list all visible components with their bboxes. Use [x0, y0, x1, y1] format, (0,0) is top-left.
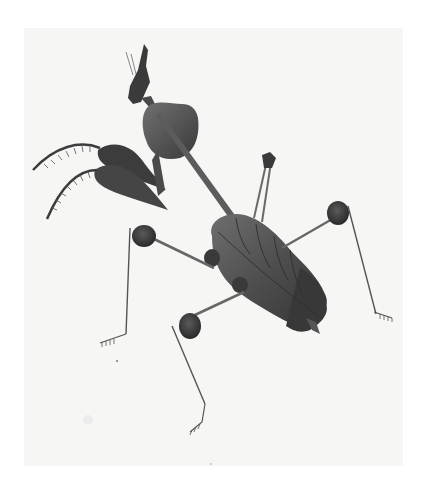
- leg-hind-tarsus: [190, 404, 205, 432]
- leg-hind-knee-lobe: [179, 313, 201, 339]
- leg-right-tibia: [348, 206, 376, 314]
- leg-left-knee-lobe: [132, 225, 156, 247]
- raptorial-forelegs: [33, 145, 168, 219]
- leg-right-knee-lobe: [327, 201, 349, 225]
- head-crest: [128, 44, 150, 104]
- leg-left-femur: [152, 238, 214, 268]
- leg-left-tarsus: [100, 334, 126, 343]
- mantis-illustration: [0, 0, 425, 494]
- paper-stain: [83, 415, 93, 425]
- leg-left-tibia: [126, 228, 130, 334]
- antenna-left: [126, 52, 133, 75]
- leg-middle-right: [262, 162, 271, 222]
- leg-left-hind: [172, 292, 244, 435]
- paper-speck: [116, 360, 118, 362]
- page: [0, 0, 425, 494]
- leg-base-lobe-lower: [232, 277, 248, 293]
- leg-right-femur: [282, 218, 334, 248]
- mantis-head: [126, 44, 158, 110]
- leg-right-tarsus: [374, 312, 392, 318]
- middle-legs: [254, 152, 276, 222]
- leg-middle-left: [254, 160, 267, 218]
- paper-speck: [210, 463, 212, 465]
- leg-middle-lobe: [262, 152, 276, 168]
